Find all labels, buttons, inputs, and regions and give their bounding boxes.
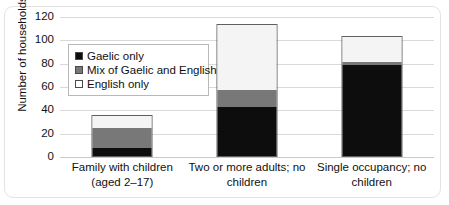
y-tick-40: 40 xyxy=(20,105,54,117)
y-tick-100: 100 xyxy=(20,35,54,47)
x-label-two-or-more-adults: Two or more adults; no children xyxy=(185,160,310,190)
segment-english-only xyxy=(217,25,276,89)
y-axis-tick-labels: 120 100 80 60 40 20 0 xyxy=(18,17,54,157)
stacked-bar-family-with-children[interactable] xyxy=(92,115,153,157)
stacked-bar-chart: Number of households 120 100 80 60 40 20… xyxy=(0,0,449,205)
stacked-bar-two-or-more-adults[interactable] xyxy=(216,24,277,157)
y-tick-80: 80 xyxy=(20,58,54,70)
segment-mix-gaelic-english xyxy=(217,90,276,108)
y-tick-60: 60 xyxy=(20,81,54,93)
segment-mix-gaelic-english xyxy=(93,128,152,148)
white-square-swatch-icon xyxy=(75,80,83,88)
segment-gaelic-only xyxy=(342,65,401,156)
legend-label: Mix of Gaelic and English xyxy=(87,64,217,76)
y-tick-20: 20 xyxy=(20,128,54,140)
black-square-swatch-icon xyxy=(75,52,83,60)
gridline-0-baseline xyxy=(60,157,434,158)
segment-gaelic-only xyxy=(93,148,152,156)
legend-item-english-only[interactable]: English only xyxy=(75,77,203,91)
gray-square-swatch-icon xyxy=(75,66,83,74)
x-label-single-occupancy: Single occupancy; no children xyxy=(309,160,434,190)
chart-legend: Gaelic only Mix of Gaelic and English En… xyxy=(68,44,209,96)
segment-gaelic-only xyxy=(217,107,276,156)
x-axis-labels: Family with children (aged 2–17) Two or … xyxy=(60,160,434,200)
stacked-bar-single-occupancy[interactable] xyxy=(341,36,402,157)
x-label-family-with-children: Family with children (aged 2–17) xyxy=(60,160,185,190)
segment-english-only xyxy=(342,37,401,62)
legend-item-gaelic-only[interactable]: Gaelic only xyxy=(75,49,203,63)
legend-label: Gaelic only xyxy=(87,50,144,62)
bar-group-2 xyxy=(309,17,434,157)
segment-english-only xyxy=(93,116,152,128)
legend-item-mix-gaelic-english[interactable]: Mix of Gaelic and English xyxy=(75,63,203,77)
y-tick-120: 120 xyxy=(20,11,54,23)
y-tick-0: 0 xyxy=(20,151,54,163)
legend-label: English only xyxy=(87,78,149,90)
